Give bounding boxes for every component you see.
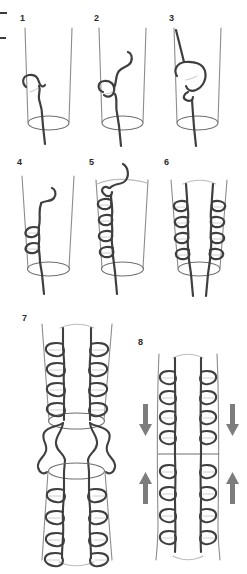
vessel-top-edge <box>173 354 203 358</box>
panel-1-artwork <box>14 14 86 150</box>
stitch-left-1 <box>174 201 187 211</box>
vessel-right-wall <box>143 28 146 122</box>
arrow-up-right-icon <box>226 472 239 504</box>
panel-2-artwork <box>88 14 160 150</box>
panel-1-number: 1 <box>20 14 25 23</box>
vessel-right-wall <box>143 180 148 268</box>
panel-3: 3 <box>163 14 235 150</box>
stitch-loop-2 <box>26 243 40 253</box>
vessel-rim-ellipse <box>28 262 70 276</box>
panel-6: 6 <box>163 158 239 300</box>
free-thread-left-a <box>38 423 63 473</box>
upper-vessel-top-edge <box>60 324 94 328</box>
vessel-right-wall <box>69 176 74 268</box>
panel-5: 5 <box>88 158 160 300</box>
suture-tail <box>115 94 121 146</box>
lower-vessel-bottom-edge <box>59 562 94 566</box>
panel-4-number: 4 <box>17 158 22 167</box>
vessel-rim-ellipse <box>178 262 220 276</box>
panel-5-number: 5 <box>89 158 94 167</box>
suture-upper-limb <box>176 30 184 62</box>
vessel-rim-ellipse <box>177 116 218 130</box>
suture-needle-limb <box>110 164 128 188</box>
suture-tail <box>39 86 45 144</box>
panel-7-number: 7 <box>22 314 27 323</box>
crop-mark-bottom <box>0 37 6 39</box>
vessel-top-edge <box>183 180 216 184</box>
lower-suture-left-entry <box>64 460 65 472</box>
panel-2: 2 <box>88 14 160 150</box>
suture-large-loop <box>175 62 205 91</box>
panel-8: 8 <box>135 338 243 574</box>
stitch-loop-2 <box>99 215 112 225</box>
suture-running-line <box>111 195 117 294</box>
vessel-left-wall <box>156 354 159 560</box>
vessel-rim-ellipse <box>102 262 144 276</box>
panel-4-artwork <box>14 158 86 300</box>
vessel-right-wall <box>217 354 220 560</box>
stitch-loop-4 <box>100 247 113 257</box>
panel-3-artwork <box>163 14 235 150</box>
panel-3-number: 3 <box>169 14 174 23</box>
vessel-right-wall <box>218 28 221 122</box>
stitch-loop-1 <box>25 227 39 237</box>
arrow-up-left-icon <box>139 472 152 504</box>
arrow-down-right-icon <box>226 404 239 436</box>
panel-6-number: 6 <box>164 158 169 167</box>
stitch-left-3 <box>175 233 188 243</box>
suture-highlight <box>105 91 113 94</box>
panel-1: 1 <box>14 14 86 150</box>
panel-4: 4 <box>14 158 86 300</box>
vessel-rim-ellipse <box>102 116 143 130</box>
panel-7: 7 <box>22 310 132 574</box>
panel-2-number: 2 <box>94 14 99 23</box>
panel-8-number: 8 <box>138 338 143 347</box>
surgical-technique-figure: 1 2 <box>0 0 247 574</box>
panel-5-artwork <box>88 158 160 300</box>
lower-suture-right-entry <box>88 460 89 472</box>
panel-8-artwork <box>135 338 243 574</box>
stitch-right-2 <box>211 217 224 227</box>
vessel-left-wall <box>22 176 28 268</box>
stitch-loop-3 <box>99 231 112 241</box>
vessel-right-wall <box>69 28 72 122</box>
stitch-left-4 <box>176 249 189 259</box>
vessel-left-wall <box>99 28 102 122</box>
panel-6-artwork <box>163 158 239 300</box>
free-thread-right-a <box>90 423 115 473</box>
lower-vessel-rim <box>49 463 105 479</box>
suture-highlight <box>30 88 38 92</box>
suture-needle-limb <box>114 52 132 88</box>
vessel-bottom-edge <box>173 556 203 560</box>
suture-needle-limb <box>41 188 55 203</box>
stitch-left-2 <box>175 217 188 227</box>
vessel-rim-ellipse <box>28 116 69 130</box>
stitch-right-1 <box>212 201 225 211</box>
panel-7-artwork <box>22 310 132 574</box>
stitch-loop-1 <box>98 199 111 209</box>
crop-mark-top <box>0 12 7 14</box>
suture-tail <box>192 100 196 146</box>
arrow-down-left-icon <box>139 404 152 436</box>
suture-highlight <box>186 76 197 80</box>
